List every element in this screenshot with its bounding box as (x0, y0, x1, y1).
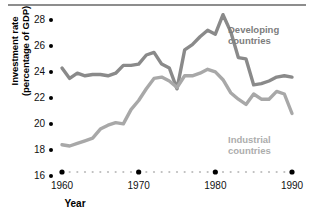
x-tick-dot-minor-icon (99, 171, 101, 173)
x-tick-dot-minor-icon (253, 171, 255, 173)
x-tick-label: 1980 (198, 180, 232, 192)
x-tick-label: 1960 (45, 180, 79, 192)
x-tick-dot-minor-icon (69, 171, 71, 173)
series-label-developing-line2: countries (228, 35, 279, 46)
chart-figure: Investment rate (percentage of GDP) 28 2… (0, 0, 314, 215)
x-tick-dot-minor-icon (237, 171, 239, 173)
x-tick-label: 1970 (122, 180, 156, 192)
x-tick-dot-minor-icon (115, 171, 117, 173)
series-label-industrial-line1: Industrial (228, 134, 271, 145)
x-tick-dot-minor-icon (222, 171, 224, 173)
x-tick-dot-minor-icon (168, 171, 170, 173)
x-tick-dot-minor-icon (84, 171, 86, 173)
x-tick-dot-minor-icon (92, 171, 94, 173)
x-tick-dot-minor-icon (230, 171, 232, 173)
x-tick-dot-minor-icon (76, 171, 78, 173)
x-tick-dot-minor-icon (130, 171, 132, 173)
x-tick-dot-minor-icon (199, 171, 201, 173)
x-tick-dot-minor-icon (276, 171, 278, 173)
series-label-developing-line1: Developing (228, 24, 279, 35)
x-tick-dot-minor-icon (176, 171, 178, 173)
x-tick-dot-major-icon (289, 169, 294, 174)
x-tick-label: 1990 (275, 180, 309, 192)
x-tick-dot-minor-icon (145, 171, 147, 173)
x-tick-dot-major-icon (59, 169, 64, 174)
x-tick-dot-major-icon (213, 169, 218, 174)
x-tick-dot-minor-icon (107, 171, 109, 173)
x-tick-dot-minor-icon (245, 171, 247, 173)
x-tick-dot-minor-icon (161, 171, 163, 173)
x-axis-title: Year (55, 198, 95, 209)
x-tick-dot-major-icon (136, 169, 141, 174)
x-tick-dot-minor-icon (283, 171, 285, 173)
x-axis-tick-dots (59, 169, 294, 174)
series-label-industrial-line2: countries (228, 145, 271, 156)
x-tick-dot-minor-icon (122, 171, 124, 173)
x-tick-dot-minor-icon (268, 171, 270, 173)
series-label-industrial: Industrial countries (228, 134, 271, 156)
series-label-developing: Developing countries (228, 24, 279, 46)
x-tick-dot-minor-icon (260, 171, 262, 173)
x-tick-dot-minor-icon (184, 171, 186, 173)
x-tick-dot-minor-icon (153, 171, 155, 173)
x-tick-dot-minor-icon (207, 171, 209, 173)
x-tick-dot-minor-icon (191, 171, 193, 173)
